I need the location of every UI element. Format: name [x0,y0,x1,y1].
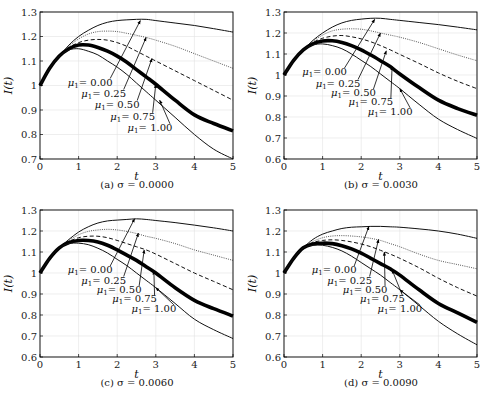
y-tick-label: 0.9 [21,289,37,300]
x-tick-label: 4 [191,359,197,370]
y-tick-label: 0.7 [21,154,37,165]
x-tick-label: 4 [435,359,441,370]
y-axis-label: I(t) [246,275,259,293]
annotation-label: μ1= 1.00 [128,122,173,135]
x-tick-label: 1 [319,161,325,172]
subplot-c-plot: μ1= 0.00μ1= 0.25μ1= 0.50μ1= 0.75μ1= 1.00… [0,198,242,396]
y-tick-label: 0.8 [265,310,281,321]
x-tick-label: 2 [114,161,120,172]
x-tick-label: 0 [281,161,287,172]
x-tick-label: 5 [230,161,236,172]
x-tick-label: 5 [474,359,480,370]
y-tick-label: 1.3 [265,7,281,18]
y-tick-label: 0.6 [21,352,37,363]
y-tick-label: 1 [275,268,281,279]
y-tick-label: 0.7 [21,331,37,342]
y-tick-label: 0.9 [265,91,281,102]
y-tick-label: 0.8 [21,310,37,321]
subplot-c: μ1= 0.00μ1= 0.25μ1= 0.50μ1= 0.75μ1= 1.00… [0,198,242,396]
subplot-a-plot: μ1= 0.00μ1= 0.25μ1= 0.50μ1= 0.75μ1= 1.00… [0,0,242,198]
subplot-b-plot: μ1= 0.00μ1= 0.25μ1= 0.50μ1= 0.75μ1= 1.00… [244,0,485,198]
y-axis-label: I(t) [246,77,259,95]
x-tick-label: 2 [358,359,364,370]
x-tick-label: 5 [230,359,236,370]
y-tick-label: 1.2 [21,226,37,237]
y-tick-label: 1.2 [21,31,37,42]
x-tick-label: 4 [435,161,441,172]
x-tick-label: 5 [474,161,480,172]
x-tick-label: 3 [397,161,403,172]
y-tick-label: 0.7 [265,133,281,144]
grid [284,12,477,159]
subplot-d-plot: μ1= 0.00μ1= 0.25μ1= 0.50μ1= 0.75μ1= 1.00… [244,198,485,396]
y-tick-label: 1.1 [21,247,37,258]
y-axis-label: I(t) [2,77,15,95]
x-tick-label: 1 [75,359,81,370]
y-tick-label: 0.8 [21,129,37,140]
x-tick-label: 3 [397,359,403,370]
y-tick-label: 1.1 [265,247,281,258]
y-axis-label: I(t) [2,275,15,293]
x-tick-label: 3 [153,359,159,370]
x-tick-label: 4 [191,161,197,172]
y-tick-label: 1 [275,70,281,81]
x-tick-label: 2 [114,359,120,370]
subplot-d: μ1= 0.00μ1= 0.25μ1= 0.50μ1= 0.75μ1= 1.00… [244,198,485,396]
series-line-4 [284,44,477,139]
annotation-arrow [154,271,155,296]
subplot-b: μ1= 0.00μ1= 0.25μ1= 0.50μ1= 0.75μ1= 1.00… [244,0,485,198]
y-tick-label: 0.6 [265,154,281,165]
subplot-b-caption: (b) σ = 0.0030 [344,179,418,190]
annotation-label: μ1= 1.00 [131,303,176,316]
y-tick-label: 1 [31,268,37,279]
x-tick-label: 1 [319,359,325,370]
axes-frame [284,12,477,159]
subplot-d-caption: (d) σ = 0.0090 [344,377,418,388]
y-tick-label: 0.7 [265,331,281,342]
x-tick-label: 0 [37,161,43,172]
y-tick-label: 0.8 [265,112,281,123]
y-tick-label: 1.1 [21,56,37,67]
x-tick-label: 0 [37,359,43,370]
y-tick-label: 0.9 [21,105,37,116]
x-tick-label: 2 [358,161,364,172]
y-tick-label: 1.2 [265,28,281,39]
y-tick-label: 1.3 [265,205,281,216]
annotation-arrow [384,252,385,286]
y-tick-label: 1 [31,80,37,91]
x-tick-label: 3 [153,161,159,172]
y-tick-label: 1.1 [265,49,281,60]
y-tick-label: 0.9 [265,289,281,300]
subplot-a-caption: (a) σ = 0.0000 [100,179,174,190]
subplot-c-caption: (c) σ = 0.0060 [100,377,173,388]
y-tick-label: 0.6 [265,352,281,363]
x-tick-label: 1 [75,161,81,172]
subplot-a: μ1= 0.00μ1= 0.25μ1= 0.50μ1= 0.75μ1= 1.00… [0,0,242,198]
y-tick-label: 1.2 [265,226,281,237]
annotation-arrow [153,84,156,113]
y-tick-label: 1.3 [21,205,37,216]
annotation-arrow [139,250,144,286]
x-tick-label: 0 [281,359,287,370]
y-tick-label: 1.3 [21,7,37,18]
annotation-arrow [354,226,369,266]
